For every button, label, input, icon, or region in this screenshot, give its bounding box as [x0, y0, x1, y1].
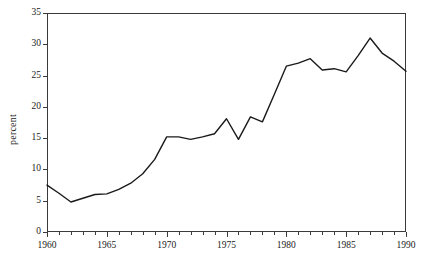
x-tick-label: 1985	[324, 241, 368, 251]
x-tick-mark-minor	[322, 232, 323, 235]
x-tick-mark-minor	[179, 232, 180, 235]
y-tick-mark	[43, 232, 47, 233]
x-tick-mark-minor	[215, 232, 216, 235]
y-tick-label: 15	[7, 133, 41, 143]
y-tick-label: 35	[7, 8, 41, 18]
y-tick-label: 0	[7, 227, 41, 237]
x-tick-label: 1990	[384, 241, 421, 251]
plot-area	[47, 13, 406, 232]
x-tick-label: 1970	[145, 241, 189, 251]
x-tick-label: 1975	[205, 241, 249, 251]
x-tick-mark-major	[227, 232, 228, 237]
x-tick-mark-minor	[131, 232, 132, 235]
x-tick-mark-major	[107, 232, 108, 237]
x-tick-label: 1965	[85, 241, 129, 251]
chart-figure: percent 05101520253035 19601965197019751…	[0, 0, 421, 259]
x-tick-mark-minor	[382, 232, 383, 235]
x-tick-mark-minor	[59, 232, 60, 235]
data-series-line	[47, 38, 406, 202]
x-tick-mark-minor	[191, 232, 192, 235]
x-tick-mark-minor	[83, 232, 84, 235]
y-tick-label: 25	[7, 71, 41, 81]
x-tick-mark-major	[346, 232, 347, 237]
x-tick-mark-minor	[262, 232, 263, 235]
y-tick-label: 10	[7, 164, 41, 174]
y-tick-label: 20	[7, 102, 41, 112]
x-tick-mark-minor	[274, 232, 275, 235]
y-tick-label: 30	[7, 39, 41, 49]
x-tick-mark-minor	[370, 232, 371, 235]
y-tick-label: 5	[7, 196, 41, 206]
x-tick-mark-minor	[334, 232, 335, 235]
x-tick-mark-major	[167, 232, 168, 237]
y-axis-label: percent	[0, 0, 24, 259]
x-tick-mark-minor	[394, 232, 395, 235]
x-tick-label: 1980	[264, 241, 308, 251]
x-tick-mark-minor	[203, 232, 204, 235]
x-tick-mark-minor	[71, 232, 72, 235]
x-tick-mark-minor	[358, 232, 359, 235]
x-tick-mark-major	[47, 232, 48, 237]
x-tick-mark-major	[286, 232, 287, 237]
x-tick-mark-minor	[119, 232, 120, 235]
x-tick-mark-minor	[155, 232, 156, 235]
x-tick-mark-minor	[95, 232, 96, 235]
x-tick-mark-minor	[298, 232, 299, 235]
x-tick-mark-minor	[143, 232, 144, 235]
x-tick-mark-minor	[238, 232, 239, 235]
x-tick-mark-major	[406, 232, 407, 237]
x-tick-label: 1960	[25, 241, 69, 251]
x-tick-mark-minor	[250, 232, 251, 235]
x-tick-mark-minor	[310, 232, 311, 235]
